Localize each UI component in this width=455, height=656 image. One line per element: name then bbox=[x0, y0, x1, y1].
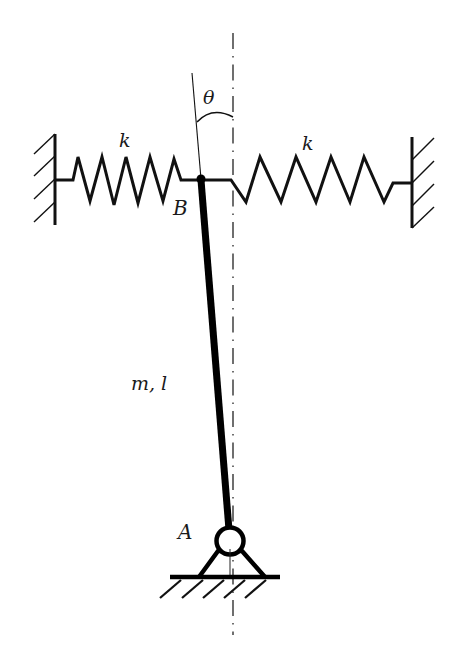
rod bbox=[201, 180, 229, 530]
point-b-label: B bbox=[172, 196, 188, 220]
right-wall bbox=[412, 137, 434, 228]
rod-params-label: m, l bbox=[131, 372, 167, 394]
angle-label: θ bbox=[203, 86, 215, 108]
right-spring-label: k bbox=[302, 132, 314, 154]
pin-support bbox=[199, 528, 265, 578]
joint-b bbox=[197, 175, 206, 184]
left-wall bbox=[34, 134, 55, 225]
left-spring-label: k bbox=[119, 129, 131, 151]
pendulum-spring-diagram: θ k k B m, l A bbox=[0, 0, 455, 656]
point-a-label: A bbox=[176, 520, 192, 544]
rod-reference-line bbox=[192, 73, 201, 179]
ground bbox=[160, 577, 280, 598]
angle-arc bbox=[197, 113, 233, 122]
